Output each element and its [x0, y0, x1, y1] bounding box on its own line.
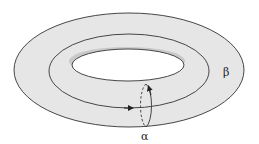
torus-diagram: β α [0, 0, 259, 144]
beta-label: β [223, 66, 229, 79]
alpha-label: α [141, 130, 149, 143]
torus-hole [72, 49, 184, 81]
